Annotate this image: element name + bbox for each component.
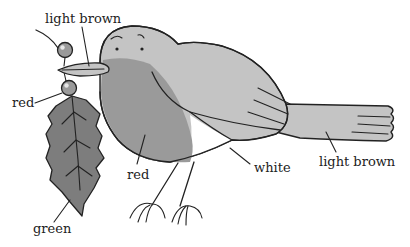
robin-tail xyxy=(276,104,394,141)
label-breast: red xyxy=(127,167,149,182)
label-tail: light brown xyxy=(319,154,396,169)
robin-diagram: light brown red red white light brown gr… xyxy=(0,0,410,247)
label-leaf: green xyxy=(33,221,72,236)
label-belly: white xyxy=(254,160,291,175)
holly-leaf xyxy=(46,96,104,216)
label-berry: red xyxy=(12,95,34,110)
upper-berry xyxy=(58,43,73,67)
label-beak: light brown xyxy=(45,11,122,26)
holly-stem xyxy=(36,30,58,48)
